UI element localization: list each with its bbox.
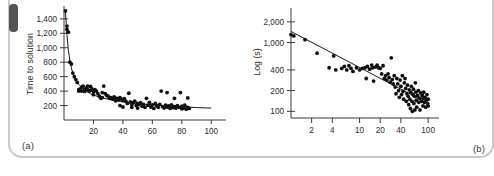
data-point [426,97,430,101]
data-point [345,68,349,72]
x-tick-label-b: 20 [376,126,386,135]
x-tick-label-a: 80 [177,127,187,136]
y-axis-title-b: Log (s) [252,48,262,75]
data-point [407,103,411,107]
data-point [165,91,169,95]
data-point [303,38,307,42]
data-point [404,99,408,103]
chart-panel-a: 2004006008001,0001,2001,40020406080100Nu… [0,0,235,176]
y-tick-label-b: 2,000 [264,18,285,27]
data-point [75,81,79,85]
data-point [381,64,385,68]
data-point [426,104,430,108]
data-point [342,65,346,69]
data-point [327,66,331,70]
chart-panel-b: 1002004001,0002,00024102040100Log (trial… [235,0,470,176]
data-point [355,66,359,70]
data-point [71,71,75,75]
data-point [186,96,190,100]
data-point [102,84,106,88]
data-point [100,96,104,100]
y-tick-label-a: 400 [43,87,57,96]
y-tick-label-a: 600 [43,73,57,82]
data-points-a [64,9,192,111]
data-point [412,87,416,91]
data-point [394,92,398,96]
x-tick-label-a: 60 [148,127,158,136]
data-point [400,93,404,97]
data-point [378,67,382,71]
data-point [334,68,338,72]
x-tick-label-b: 4 [330,126,335,135]
data-point [397,89,401,93]
scatter-plot-a: 2004006008001,0001,2001,40020406080100Nu… [0,0,235,140]
x-tick-label-b: 2 [309,126,314,135]
data-point [65,24,69,28]
data-point [401,89,405,93]
data-point [403,77,407,81]
data-points-b [289,33,430,113]
data-point [393,85,397,89]
data-point [148,100,152,104]
data-point [372,79,376,83]
data-point [292,34,296,38]
x-tick-label-b: 10 [355,126,365,135]
data-point [121,105,125,109]
data-point [406,83,410,87]
y-tick-label-a: 800 [43,58,57,67]
data-point [398,78,402,82]
fit-curve-a [65,12,211,108]
y-tick-label-b: 100 [270,107,284,116]
data-point [387,76,391,80]
data-point [402,81,406,85]
data-point [136,106,140,110]
data-point [69,62,73,66]
data-point [413,81,417,85]
data-point [415,105,419,109]
data-point [390,78,394,82]
y-tick-label-b: 400 [270,66,284,75]
panel-label-a: (a) [22,140,34,151]
axis-lines-a [64,6,226,120]
y-tick-label-a: 200 [43,102,57,111]
x-tick-label-a: 20 [89,127,99,136]
data-point [315,51,319,55]
data-point [395,77,399,81]
x-tick-label-b: 40 [396,126,406,135]
data-point [422,90,426,94]
data-point [67,30,71,34]
data-point [364,77,368,81]
x-tick-label-a: 40 [118,127,128,136]
data-point [412,102,416,106]
data-point [400,74,404,78]
data-point [404,87,408,91]
data-point [380,72,384,76]
data-point [64,9,68,13]
data-point [351,70,355,74]
data-point [389,56,393,60]
x-tick-label-a: 100 [204,127,218,136]
data-point [399,85,403,89]
data-point [425,93,429,97]
x-tick-label-b: 100 [421,126,435,135]
data-point [159,89,163,93]
data-point [418,108,422,112]
data-point [178,91,182,95]
data-point [187,107,191,111]
data-point [92,93,96,97]
y-tick-label-a: 1,400 [37,15,58,24]
y-tick-label-b: 200 [270,87,284,96]
data-point [396,82,400,86]
data-point [332,54,336,58]
data-point [173,96,177,100]
panel-label-b: (b) [473,143,485,154]
y-axis-title-a: Time to solution [25,33,35,95]
y-tick-label-a: 1,200 [37,29,58,38]
data-point [145,96,149,100]
data-point [152,107,156,111]
data-point [130,105,134,109]
y-tick-label-b: 1,000 [264,39,285,48]
data-point [386,72,390,76]
data-point [392,74,396,78]
